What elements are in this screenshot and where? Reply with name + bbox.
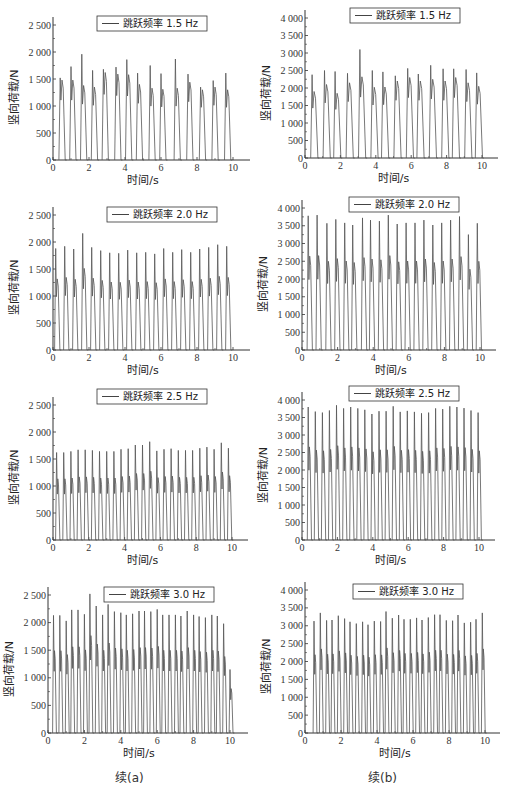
chart-b4: 05001 0001 5002 0002 5003 0003 5004 0000… (259, 582, 500, 760)
y-tick-label: 500 (285, 327, 300, 338)
y-tick-label: 1 500 (278, 291, 301, 302)
legend: 跳跃频率 2.0 Hz (107, 207, 217, 222)
y-tick-label: 1 000 (24, 672, 47, 683)
x-tick-label: 6 (159, 352, 164, 363)
x-tick-label: 4 (371, 352, 376, 363)
y-tick-label: 2 000 (29, 47, 52, 58)
y-axis-label: 竖向荷载/N (259, 65, 273, 121)
y-tick-label: 2 000 (278, 274, 301, 285)
y-tick-label: 1 000 (278, 309, 301, 320)
x-axis-label: 时间/s (375, 364, 407, 377)
y-axis-label: 竖向荷载/N (7, 260, 21, 316)
x-tick-label: 10 (228, 162, 238, 173)
y-axis-label: 竖向荷载/N (256, 447, 270, 503)
x-tick-label: 8 (444, 160, 449, 171)
svg-text:跳跃频率 3.0 Hz: 跳跃频率 3.0 Hz (379, 585, 454, 597)
x-tick-label: 10 (228, 352, 238, 363)
y-tick-label: 500 (36, 508, 51, 519)
x-tick-label: 4 (370, 542, 375, 553)
x-axis-label: 时间/s (375, 554, 407, 567)
y-tick-label: 4 000 (281, 585, 304, 596)
x-tick-label: 2 (87, 352, 92, 363)
y-tick-label: 2 500 (29, 400, 52, 411)
y-tick-label: 3 500 (278, 412, 301, 423)
y-tick-label: 500 (285, 517, 300, 528)
y-tick-label: 1 000 (278, 500, 301, 511)
y-axis-label: 竖向荷载/N (2, 641, 16, 697)
y-tick-label: 2 000 (29, 237, 52, 248)
y-tick-label: 2 000 (278, 465, 301, 476)
x-tick-label: 2 (82, 735, 87, 746)
y-tick-label: 1 000 (281, 692, 304, 703)
y-tick-label: 4 000 (281, 13, 304, 24)
x-tick-label: 6 (155, 735, 160, 746)
y-tick-label: 1 500 (24, 645, 47, 656)
y-tick-label: 500 (288, 135, 303, 146)
x-tick-label: 8 (441, 542, 446, 553)
x-tick-label: 8 (195, 162, 200, 173)
y-axis-label: 竖向荷载/N (256, 256, 270, 312)
legend: 跳跃频率 2.5 Hz (349, 386, 459, 401)
y-tick-label: 1 000 (29, 291, 52, 302)
y-tick-label: 2 000 (281, 83, 304, 94)
x-tick-label: 10 (227, 542, 237, 553)
y-tick-label: 1 500 (281, 100, 304, 111)
y-tick-label: 1 500 (29, 264, 52, 275)
x-tick-label: 2 (335, 542, 340, 553)
x-tick-label: 4 (123, 352, 128, 363)
svg-text:跳跃频率 2.0 Hz: 跳跃频率 2.0 Hz (133, 208, 208, 220)
y-tick-label: 2 500 (278, 447, 301, 458)
svg-text:跳跃频率 1.5 Hz: 跳跃频率 1.5 Hz (123, 17, 198, 29)
x-tick-label: 8 (191, 735, 196, 746)
x-tick-label: 10 (477, 160, 487, 171)
x-tick-label: 6 (406, 352, 411, 363)
chart-b2: 05001 0001 5002 0002 5003 0003 5004 0000… (256, 197, 496, 377)
y-tick-label: 1 500 (278, 482, 301, 493)
y-tick-label: 2 000 (24, 617, 47, 628)
x-tick-label: 0 (51, 162, 56, 173)
x-tick-label: 0 (51, 542, 56, 553)
x-tick-label: 4 (375, 735, 380, 746)
y-tick-label: 4 000 (278, 395, 301, 406)
load-waveform (56, 442, 234, 540)
chart-b1: 05001 0001 5002 0002 5003 0003 5004 0000… (259, 8, 498, 185)
svg-text:跳跃频率 2.5 Hz: 跳跃频率 2.5 Hz (375, 387, 450, 399)
x-tick-label: 0 (300, 352, 305, 363)
y-axis-label: 竖向荷载/N (7, 70, 21, 126)
x-tick-label: 6 (159, 162, 164, 173)
legend: 跳跃频率 2.5 Hz (97, 389, 207, 404)
y-tick-label: 4 000 (278, 203, 301, 214)
figure-canvas: 05001 0001 5002 0002 5000246810时间/s竖向荷载/… (0, 0, 512, 793)
svg-text:跳跃频率 2.0 Hz: 跳跃频率 2.0 Hz (375, 198, 450, 210)
x-axis-label: 时间/s (379, 747, 411, 760)
x-tick-label: 2 (86, 542, 91, 553)
y-tick-label: 3 000 (278, 238, 301, 249)
x-tick-label: 8 (195, 352, 200, 363)
x-tick-label: 2 (87, 162, 92, 173)
x-tick-label: 0 (303, 735, 308, 746)
caption-left: 续(a) (115, 768, 144, 785)
legend: 跳跃频率 1.5 Hz (97, 16, 207, 31)
y-axis-label: 竖向荷载/N (259, 639, 273, 695)
svg-text:跳跃频率 1.5 Hz: 跳跃频率 1.5 Hz (376, 9, 451, 21)
y-tick-label: 2 500 (24, 590, 47, 601)
y-tick-label: 2 500 (29, 210, 52, 221)
y-tick-label: 3 500 (278, 220, 301, 231)
y-tick-label: 500 (36, 318, 51, 329)
x-tick-label: 0 (303, 160, 308, 171)
y-tick-label: 2 000 (281, 656, 304, 667)
x-tick-label: 4 (118, 735, 123, 746)
load-waveform (55, 233, 233, 350)
x-tick-label: 10 (474, 542, 484, 553)
x-tick-label: 8 (447, 735, 452, 746)
y-tick-label: 2 500 (281, 638, 304, 649)
y-tick-label: 1 500 (29, 454, 52, 465)
legend: 跳跃频率 3.0 Hz (104, 587, 214, 602)
svg-text:跳跃频率 3.0 Hz: 跳跃频率 3.0 Hz (130, 588, 205, 600)
x-tick-label: 2 (338, 160, 343, 171)
x-tick-label: 0 (51, 352, 56, 363)
x-tick-label: 10 (480, 735, 490, 746)
y-tick-label: 3 000 (281, 620, 304, 631)
chart-a4: 05001 0001 5002 0002 5000246810时间/s竖向荷载/… (2, 587, 248, 760)
y-tick-label: 2 000 (29, 427, 52, 438)
